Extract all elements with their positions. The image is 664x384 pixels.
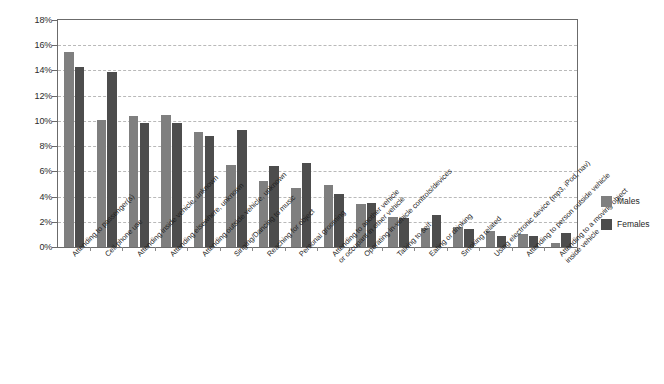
bar-group xyxy=(58,20,90,247)
y-axis-tick-label: 2% xyxy=(39,217,52,227)
legend-swatch-icon xyxy=(601,196,612,207)
bars-layer xyxy=(58,20,577,247)
y-axis-tick xyxy=(52,20,57,21)
x-axis-labels: Attending to passenger(s)Cell phone useA… xyxy=(0,248,664,384)
y-axis-tick-label: 12% xyxy=(35,91,52,101)
y-axis-tick xyxy=(52,197,57,198)
legend-item[interactable]: Males xyxy=(601,195,661,207)
bar-females xyxy=(75,67,85,247)
bar-males xyxy=(64,52,74,247)
bar-group xyxy=(447,20,479,247)
legend-label: Males xyxy=(617,196,640,206)
legend-item[interactable]: Females xyxy=(601,218,661,230)
y-axis-tick-label: 4% xyxy=(39,192,52,202)
chart-legend: MalesFemales xyxy=(601,195,661,241)
legend-swatch-icon xyxy=(601,219,612,230)
y-axis-tick-label: 8% xyxy=(39,141,52,151)
y-axis-tick-label: 10% xyxy=(35,116,52,126)
bar-chart: 0%2%4%6%8%10%12%14%16%18% Attending to p… xyxy=(0,0,664,384)
bar-males xyxy=(551,243,561,247)
y-axis-tick xyxy=(52,146,57,147)
y-axis-tick-label: 18% xyxy=(35,15,52,25)
y-axis-tick xyxy=(52,222,57,223)
bar-females xyxy=(302,163,312,247)
bar-group xyxy=(480,20,512,247)
y-axis-tick xyxy=(52,96,57,97)
bar-group xyxy=(415,20,447,247)
y-axis-tick xyxy=(52,70,57,71)
y-axis-tick-label: 6% xyxy=(39,166,52,176)
y-axis-tick xyxy=(52,121,57,122)
y-axis-tick xyxy=(52,45,57,46)
y-axis-tick xyxy=(52,171,57,172)
bar-group xyxy=(123,20,155,247)
y-axis-tick-label: 16% xyxy=(35,40,52,50)
y-axis-tick-label: 14% xyxy=(35,65,52,75)
bar-females xyxy=(172,123,182,247)
bar-females xyxy=(140,123,150,247)
legend-label: Females xyxy=(617,219,650,229)
